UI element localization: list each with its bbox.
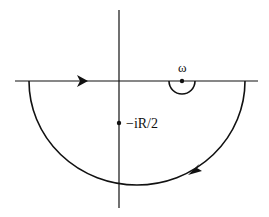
omega-label: ω	[178, 60, 187, 75]
pole-point	[117, 121, 121, 125]
pole-label: −iR/2	[126, 116, 158, 131]
large-semicircle-arc	[29, 81, 245, 185]
omega-point	[180, 79, 184, 83]
contour-diagram: ω −iR/2	[0, 0, 269, 217]
